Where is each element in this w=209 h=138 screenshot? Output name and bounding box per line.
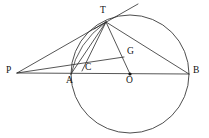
segment-p-g [17, 57, 124, 73]
point-label-t: T [100, 6, 106, 16]
segment-t-b [106, 22, 189, 74]
geometry-figure: P T A C G O B [0, 0, 209, 138]
point-label-p: P [6, 66, 11, 76]
segment-p-b-baseline [17, 73, 189, 74]
point-label-a: A [66, 76, 73, 86]
point-label-b: B [193, 66, 199, 76]
point-label-g: G [127, 47, 134, 57]
segment-p-t [17, 22, 106, 73]
point-label-o: O [126, 76, 133, 86]
point-label-c: C [85, 63, 91, 73]
geometry-canvas [0, 0, 209, 138]
